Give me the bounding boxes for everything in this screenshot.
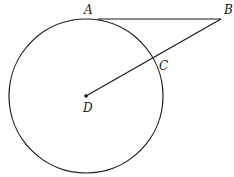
label-c: C <box>159 59 168 73</box>
label-b: B <box>223 3 233 17</box>
center-point-d <box>84 94 88 98</box>
geometry-diagram: A B C D <box>0 0 234 177</box>
label-a: A <box>83 3 93 17</box>
segment-bd <box>86 19 221 96</box>
label-d: D <box>82 101 93 115</box>
